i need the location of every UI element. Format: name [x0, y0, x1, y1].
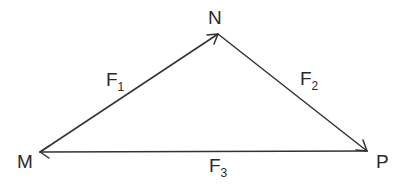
vector-f3-line: [40, 151, 367, 152]
vector-label-f1-sub: 1: [118, 80, 125, 94]
vector-label-f3-sub: 3: [221, 166, 228, 180]
vector-f2-line: [218, 34, 367, 151]
vector-label-f1: F1: [106, 69, 125, 94]
vector-label-f1-base: F: [106, 69, 118, 90]
point-label-m: M: [17, 151, 33, 172]
vector-label-f2: F2: [300, 68, 319, 93]
vector-label-f2-base: F: [300, 68, 312, 89]
vector-triangle-diagram: M N P F1 F2 F3: [0, 0, 410, 188]
vector-label-f3: F3: [209, 155, 228, 180]
vector-f1-line: [40, 34, 218, 152]
vector-label-f2-sub: 2: [312, 79, 319, 93]
vector-label-f3-base: F: [209, 155, 221, 176]
point-label-p: P: [376, 151, 389, 172]
point-label-n: N: [208, 7, 222, 28]
